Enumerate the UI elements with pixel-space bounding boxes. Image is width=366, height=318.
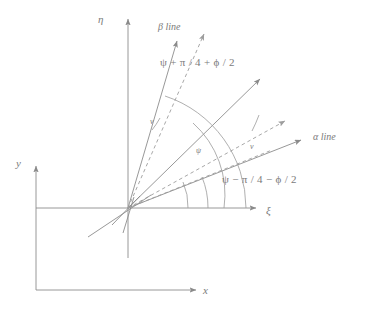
eta-axis-label: η (98, 14, 103, 25)
third-quadrant-line-3 (123, 197, 134, 233)
arc-alpha-outer (202, 177, 208, 208)
alpha-dashed-line (128, 121, 285, 208)
diagram-svg (0, 0, 366, 318)
psi-label: ψ (196, 147, 201, 155)
x-axis-ref-label: x (203, 285, 208, 296)
arc-beta-outer (165, 96, 246, 208)
beta-line-label: β line (158, 22, 180, 32)
y-axis-ref-label: y (16, 158, 21, 169)
diagram-canvas: η ξ y x β line α line ψ + π / 4 + ϕ / 2 … (0, 0, 366, 318)
bisector-line (128, 79, 260, 208)
xi-axis-label: ξ (266, 205, 271, 216)
arc-bisector (193, 123, 225, 208)
nu-upper-label: ν (150, 118, 154, 126)
third-quadrant-line (88, 195, 151, 237)
third-quadrant-line-2 (112, 196, 140, 225)
nu-lower-label: ν (250, 143, 254, 151)
alpha-angle-equation: ψ − π / 4 − ϕ / 2 (222, 174, 297, 185)
alpha-line-label: α line (313, 132, 336, 142)
arc-nu-upper (252, 115, 259, 131)
beta-angle-equation: ψ + π / 4 + ϕ / 2 (160, 57, 235, 68)
